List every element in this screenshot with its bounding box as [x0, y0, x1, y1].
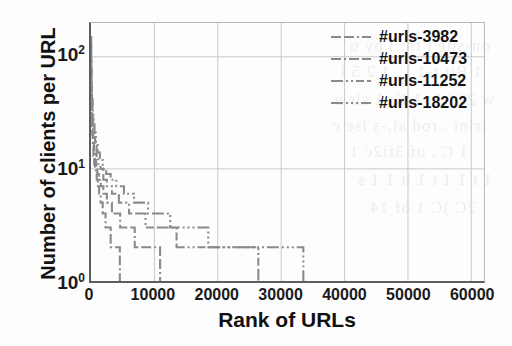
legend-item-urls-10473[interactable]: #urls-10473	[330, 48, 482, 70]
legend-item-label: #urls-18202	[379, 94, 467, 112]
x-tick-10000: 10000	[131, 286, 176, 304]
legend-item-label: #urls-11252	[379, 72, 466, 90]
figure-container: on-site t th. ) by u1 Bit t-1 l . 1 2 5 …	[0, 0, 512, 346]
x-tick-0: 0	[85, 286, 94, 304]
x-tick-30000: 30000	[258, 286, 303, 304]
legend: #urls-3982#urls-10473#urls-11252#urls-18…	[330, 22, 482, 116]
legend-line-sample-icon	[330, 53, 372, 65]
x-tick-40000: 40000	[322, 286, 367, 304]
legend-line-sample-icon	[330, 75, 372, 87]
legend-item-urls-18202[interactable]: #urls-18202	[330, 92, 482, 114]
y-axis-label: Number of clients per URL	[37, 14, 60, 294]
legend-item-urls-11252[interactable]: #urls-11252	[330, 70, 482, 92]
legend-item-label: #urls-3982	[379, 28, 458, 46]
x-tick-20000: 20000	[194, 286, 239, 304]
x-axis-label: Rank of URLs	[89, 308, 485, 332]
x-tick-60000: 60000	[450, 286, 495, 304]
x-tick-50000: 50000	[386, 286, 431, 304]
legend-item-label: #urls-10473	[379, 50, 467, 68]
legend-line-sample-icon	[330, 97, 372, 109]
legend-item-urls-3982[interactable]: #urls-3982	[330, 26, 482, 48]
legend-line-sample-icon	[330, 31, 372, 43]
